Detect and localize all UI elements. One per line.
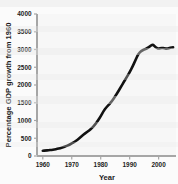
y-tick-label: 0: [28, 152, 32, 159]
chart-figure: 05001000150020002500300035004000 1960197…: [0, 0, 178, 184]
y-tick-label: 2000: [17, 81, 32, 88]
x-tick-label: 1960: [36, 161, 51, 168]
x-axis-label: Year: [99, 173, 115, 182]
x-tick-label: 1970: [65, 161, 80, 168]
x-tick-label: 2000: [152, 161, 167, 168]
y-tick-label: 1000: [17, 117, 32, 124]
y-tick-label: 4000: [17, 10, 32, 17]
y-tick-label: 2500: [17, 64, 32, 71]
y-tick-label: 3500: [17, 28, 32, 35]
plot-area: [37, 14, 176, 155]
x-axis-tick-labels: 19601970198019902000: [36, 161, 166, 168]
y-axis-tick-labels: 05001000150020002500300035004000: [17, 10, 32, 159]
x-tick-label: 1990: [123, 161, 138, 168]
x-tick-label: 1980: [94, 161, 109, 168]
plot-background: [37, 14, 176, 155]
y-tick-label: 3000: [17, 46, 32, 53]
line-chart: 05001000150020002500300035004000 1960197…: [0, 0, 178, 184]
y-axis-label: Percentage GDP growth from 1960: [4, 23, 13, 148]
y-tick-label: 1500: [17, 99, 32, 106]
y-tick-label: 500: [21, 135, 32, 142]
